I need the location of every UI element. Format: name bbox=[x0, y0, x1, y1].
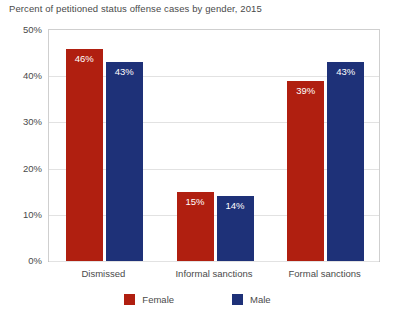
bar-female-0[interactable]: 46% bbox=[66, 49, 103, 262]
bar-female-2[interactable]: 39% bbox=[287, 81, 324, 261]
legend-label: Male bbox=[250, 294, 271, 305]
y-axis-tick-label: 20% bbox=[0, 162, 42, 173]
y-axis-tick-label: 50% bbox=[0, 24, 42, 35]
y-axis-tick-label: 0% bbox=[0, 255, 42, 266]
x-axis-label-1: Informal sanctions bbox=[175, 268, 252, 279]
plot-area: 46%43%15%14%39%43% bbox=[48, 29, 380, 262]
x-axis-label-0: Dismissed bbox=[81, 268, 125, 279]
x-axis-label-2: Formal sanctions bbox=[288, 268, 360, 279]
chart-title: Percent of petitioned status offense cas… bbox=[9, 3, 262, 14]
legend-swatch-icon bbox=[124, 294, 135, 305]
bar-female-1[interactable]: 15% bbox=[177, 192, 214, 261]
y-axis-tick-label: 40% bbox=[0, 70, 42, 81]
legend: FemaleMale bbox=[0, 294, 395, 305]
bar-male-2[interactable]: 43% bbox=[327, 62, 364, 261]
legend-item-male[interactable]: Male bbox=[232, 294, 271, 305]
bar-male-1[interactable]: 14% bbox=[217, 196, 254, 261]
bar-value-label: 39% bbox=[287, 85, 324, 96]
gridline bbox=[49, 261, 379, 262]
legend-label: Female bbox=[142, 294, 174, 305]
bar-value-label: 15% bbox=[177, 196, 214, 207]
bar-value-label: 43% bbox=[106, 66, 143, 77]
y-axis-tick-label: 30% bbox=[0, 116, 42, 127]
legend-swatch-icon bbox=[232, 294, 243, 305]
bar-male-0[interactable]: 43% bbox=[106, 62, 143, 261]
bar-value-label: 43% bbox=[327, 66, 364, 77]
y-axis-tick-label: 10% bbox=[0, 208, 42, 219]
bar-chart: Percent of petitioned status offense cas… bbox=[0, 0, 395, 317]
bar-value-label: 46% bbox=[66, 53, 103, 64]
bar-value-label: 14% bbox=[217, 200, 254, 211]
legend-item-female[interactable]: Female bbox=[124, 294, 174, 305]
